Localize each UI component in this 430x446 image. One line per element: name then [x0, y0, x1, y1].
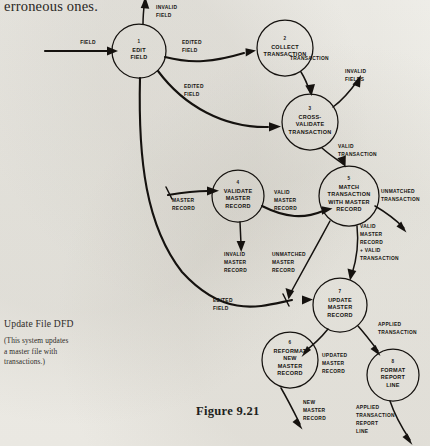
flow-arrows	[45, 0, 413, 445]
flow-label-master-record-1: MASTER	[172, 198, 195, 203]
flow-arrow-field-to-edit-field	[45, 46, 118, 55]
flow-label-applied-transaction-1: APPLIED	[378, 322, 401, 327]
process-3-line-2: VALIDATE	[296, 121, 325, 127]
flow-arrow-edited-field-to-cross-validate	[158, 71, 281, 132]
process-6-line-3: MASTER	[278, 363, 303, 369]
process-4-line-1: VALIDATE	[224, 188, 253, 194]
flow-arrow-transaction	[301, 72, 315, 96]
flow-label-invalid-field-1: INVALID	[156, 5, 177, 10]
flow-label-unmatched-transaction-1: UNMATCHED	[381, 189, 415, 194]
flow-label-unmatched-master-record-2: MASTER	[272, 260, 295, 265]
flow-label-applied-transaction-report-line-1: APPLIED	[356, 405, 379, 410]
flow-label-new-master-record-1: NEW	[303, 400, 315, 405]
process-8-number: 8	[392, 359, 395, 364]
flow-label-valid-master-plus-valid-transaction-3: RECORD	[360, 240, 383, 245]
process-7-line-3: RECORD	[327, 312, 352, 318]
flow-label-valid-master-record-3: RECORD	[274, 206, 297, 211]
caption-title: Update File DFD	[4, 318, 144, 329]
dfd-canvas: 1 EDIT FIELD 2 COLLECT TRANSACTION 3 CRO…	[0, 0, 430, 446]
caption-block: Update File DFD (This system updates a m…	[4, 318, 144, 368]
flow-label-edited-field-collect-2: FIELD	[182, 48, 198, 53]
process-3-number: 3	[309, 106, 312, 111]
flow-arrow-invalid-master-record	[237, 222, 246, 252]
flow-arrow-edited-field-to-collect	[165, 48, 256, 61]
process-node-4-validate-master-record[interactable]: 4 VALIDATE MASTER RECORD	[212, 170, 264, 222]
flow-label-valid-master-record-1: VALID	[274, 190, 290, 195]
flow-label-valid-master-record-2: MASTER	[274, 198, 297, 203]
process-6-line-2: NEW	[283, 355, 297, 361]
flow-label-edited-field-crossvalidate-1: EDITED	[184, 84, 204, 89]
process-2-number: 2	[284, 36, 287, 41]
process-4-number: 4	[237, 180, 240, 185]
process-8-line-3: LINE	[386, 382, 400, 388]
process-6-line-1: REFORMAT	[274, 348, 307, 354]
flow-label-unmatched-transaction-2: TRANSACTION	[381, 197, 420, 202]
process-1-number: 1	[138, 39, 141, 44]
flow-label-new-master-record-2: MASTER	[303, 408, 326, 413]
flow-arrow-new-master-record	[281, 388, 303, 430]
flow-label-unmatched-master-record-1: UNMATCHED	[272, 252, 306, 257]
process-7-line-1: UPDATE	[328, 297, 352, 303]
flow-label-valid-transaction-1: VALID	[338, 144, 354, 149]
flow-label-edited-field-update-2: FIELD	[213, 306, 229, 311]
process-5-line-4: RECORD	[336, 206, 361, 212]
flow-label-applied-transaction-report-line-2: TRANSACTION	[356, 413, 395, 418]
flow-label-invalid-master-record-1: INVALID	[224, 252, 245, 257]
flow-label-transaction: TRANSACTION	[290, 56, 329, 61]
process-node-3-cross-validate-transaction[interactable]: 3 CROSS- VALIDATE TRANSACTION	[282, 94, 338, 150]
flow-label-applied-transaction-report-line-3: REPORT	[356, 421, 378, 426]
process-5-line-2: TRANSACTION	[328, 191, 371, 197]
process-5-number: 5	[348, 176, 351, 181]
flow-label-invalid-fields-1: INVALID	[345, 69, 366, 74]
process-4-line-3: RECORD	[225, 203, 250, 209]
flow-label-updated-master-record-3: RECORD	[322, 369, 345, 374]
flow-label-applied-transaction-2: TRANSACTION	[378, 330, 417, 335]
figure-page: erroneous ones.	[0, 0, 430, 446]
process-6-number: 6	[289, 340, 292, 345]
process-8-line-2: REPORT	[381, 374, 406, 380]
flow-label-field: FIELD	[80, 40, 96, 45]
process-4-line-2: MASTER	[226, 195, 251, 201]
process-5-line-3: WITH MASTER	[328, 199, 370, 205]
flow-label-edited-field-crossvalidate-2: FIELD	[184, 92, 200, 97]
flow-label-valid-master-plus-valid-transaction-2: MASTER	[360, 232, 383, 237]
caption-note-line-1: (This system updates	[4, 336, 144, 347]
flow-arrow-valid-transaction	[322, 148, 346, 168]
flow-label-invalid-field-2: FIELD	[156, 13, 172, 18]
flow-arrow-unmatched-transaction	[375, 206, 407, 233]
flow-label-invalid-master-record-3: RECORD	[224, 268, 247, 273]
flow-label-valid-master-plus-valid-transaction-4: + VALID	[360, 248, 381, 253]
process-6-line-4: RECORD	[277, 370, 302, 376]
process-1-line-2: FIELD	[130, 54, 147, 60]
flow-label-master-record-2: RECORD	[172, 206, 195, 211]
flow-label-invalid-master-record-2: MASTER	[224, 260, 247, 265]
process-8-line-1: FORMAT	[381, 367, 406, 373]
flow-label-valid-transaction-2: TRANSACTION	[338, 152, 377, 157]
process-node-2-collect-transaction[interactable]: 2 COLLECT TRANSACTION	[257, 20, 313, 76]
flow-label-valid-master-plus-valid-transaction-1: VALID	[360, 224, 376, 229]
process-7-number: 7	[339, 289, 342, 294]
flow-arrow-applied-transaction-report-line	[390, 401, 413, 445]
process-node-7-update-master-record[interactable]: 7 UPDATE MASTER RECORD	[313, 278, 367, 332]
flow-arrow-invalid-field	[141, 0, 150, 24]
flow-arrow-valid-master-record-plus-valid-transaction	[348, 226, 358, 281]
process-node-8-format-report-line[interactable]: 8 FORMAT REPORT LINE	[367, 349, 419, 401]
flow-label-unmatched-master-record-3: RECORD	[272, 268, 295, 273]
flow-label-updated-master-record-1: UPDATED	[322, 353, 348, 358]
process-1-line-1: EDIT	[132, 47, 146, 53]
flow-label-new-master-record-3: RECORD	[303, 416, 326, 421]
caption-note-line-2: a master file with	[4, 347, 144, 358]
flow-label-updated-master-record-2: MASTER	[322, 361, 345, 366]
flow-label-valid-master-plus-valid-transaction-5: TRANSACTION	[360, 256, 399, 261]
caption-note-line-3: transactions.)	[4, 357, 144, 368]
process-2-line-1: COLLECT	[271, 44, 299, 50]
flow-label-applied-transaction-report-line-4: LINE	[356, 429, 369, 434]
process-3-line-3: TRANSACTION	[289, 129, 332, 135]
process-node-1-edit-field[interactable]: 1 EDIT FIELD	[112, 24, 166, 78]
flow-label-edited-field-collect-1: EDITED	[182, 40, 202, 45]
figure-label: Figure 9.21	[196, 404, 259, 419]
process-7-line-2: MASTER	[328, 304, 353, 310]
flow-label-invalid-fields-2: FIELDS	[345, 77, 365, 82]
process-node-5-match-transaction-with-master-record[interactable]: 5 MATCH TRANSACTION WITH MASTER RECORD	[319, 166, 379, 226]
process-node-6-reformat-new-master-record[interactable]: 6 REFORMAT NEW MASTER RECORD	[262, 332, 318, 388]
